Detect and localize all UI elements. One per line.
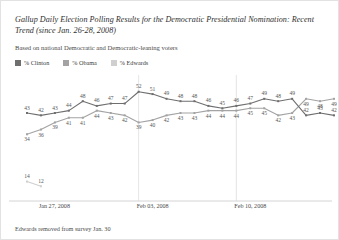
chart-subtitle: Based on national Democratic and Democra…	[15, 44, 324, 52]
chart-footnote: Edwards removed from survey Jan. 30	[15, 225, 111, 232]
data-label: 46	[94, 97, 100, 103]
data-point	[333, 114, 335, 116]
data-point	[40, 114, 42, 116]
data-label: 39	[136, 124, 142, 130]
data-label: 51	[150, 86, 156, 92]
data-label: 42	[275, 117, 281, 123]
data-point	[40, 185, 42, 187]
data-point	[221, 110, 223, 112]
data-point	[277, 114, 279, 116]
data-point	[207, 105, 209, 107]
legend-label-clinton: % Clinton	[24, 59, 49, 66]
data-point	[249, 107, 251, 109]
data-point	[249, 103, 251, 105]
data-point	[152, 119, 154, 121]
data-label: 45	[261, 110, 267, 116]
data-point	[235, 110, 237, 112]
data-point	[96, 105, 98, 107]
line-chart-svg: 1412343639414144434239404243434444444545…	[1, 73, 339, 203]
legend-item-edwards: % Edwards	[111, 59, 148, 66]
data-label: 43	[24, 105, 30, 111]
data-point	[26, 181, 28, 183]
data-point	[263, 98, 265, 100]
data-label: 45	[248, 110, 254, 116]
data-point	[68, 117, 70, 119]
data-label: 47	[122, 95, 128, 101]
legend-swatch-obama	[63, 60, 69, 66]
data-label: 42	[122, 117, 128, 123]
data-point	[263, 107, 265, 109]
data-label: 12	[38, 178, 44, 184]
data-label: 44	[66, 102, 72, 108]
x-tick-label: Feb 10, 2008	[234, 203, 266, 209]
data-label: 42	[331, 107, 337, 113]
data-point	[82, 100, 84, 102]
data-point	[180, 112, 182, 114]
data-label: 42	[164, 117, 170, 123]
data-point	[26, 133, 28, 135]
data-point	[110, 112, 112, 114]
data-point	[82, 117, 84, 119]
chart-figure: Gallup Daily Election Polling Results fo…	[0, 0, 339, 240]
data-label: 44	[206, 113, 212, 119]
data-point	[207, 110, 209, 112]
data-label: 43	[192, 115, 198, 121]
data-label: 44	[234, 113, 240, 119]
x-axis: Jan 27, 2008Feb 03, 2008Feb 10, 2008	[1, 203, 339, 217]
data-label: 42	[38, 107, 44, 113]
data-label: 46	[234, 97, 240, 103]
data-point	[68, 110, 70, 112]
data-point	[110, 103, 112, 105]
data-label: 43	[178, 115, 184, 121]
data-point	[40, 129, 42, 131]
data-point	[193, 100, 195, 102]
data-point	[138, 121, 140, 123]
data-label: 44	[220, 113, 226, 119]
x-tick-label: Jan 27, 2008	[39, 203, 70, 209]
data-label: 44	[94, 113, 100, 119]
data-label: 42	[303, 107, 309, 113]
data-label: 43	[317, 105, 323, 111]
data-point	[180, 100, 182, 102]
data-point	[152, 93, 154, 95]
data-point	[124, 103, 126, 105]
data-point	[277, 100, 279, 102]
data-label: 41	[66, 120, 72, 126]
data-point	[291, 112, 293, 114]
data-point	[166, 114, 168, 116]
legend-label-obama: % Obama	[72, 59, 97, 66]
data-label: 40	[150, 122, 156, 128]
data-label: 49	[261, 90, 267, 96]
data-point	[235, 105, 237, 107]
data-label: 36	[38, 132, 44, 138]
legend-item-clinton: % Clinton	[15, 59, 49, 66]
data-label: 48	[275, 93, 281, 99]
data-label: 47	[248, 95, 254, 101]
data-label: 46	[206, 97, 212, 103]
legend-swatch-clinton	[15, 60, 21, 66]
data-point	[26, 112, 28, 114]
data-label: 43	[108, 115, 114, 121]
data-label: 14	[24, 173, 30, 179]
data-label: 45	[220, 100, 226, 106]
plot-area: 1412343639414144434239404243434444444545…	[1, 73, 339, 203]
data-label: 48	[80, 93, 86, 99]
legend-label-edwards: % Edwards	[120, 59, 148, 66]
legend-swatch-edwards	[111, 60, 117, 66]
data-point	[291, 98, 293, 100]
chart-legend: % Clinton % Obama % Edwards	[15, 59, 148, 66]
data-point	[54, 121, 56, 123]
data-label: 34	[24, 136, 30, 142]
data-point	[221, 107, 223, 109]
x-tick-label: Feb 03, 2008	[137, 203, 169, 209]
data-label: 47	[108, 95, 114, 101]
data-label: 39	[52, 124, 58, 130]
data-label: 52	[136, 83, 142, 89]
data-point	[333, 98, 335, 100]
data-label: 49	[289, 90, 295, 96]
data-point	[124, 114, 126, 116]
data-point	[305, 114, 307, 116]
data-point	[96, 110, 98, 112]
data-point	[319, 112, 321, 114]
data-point	[193, 112, 195, 114]
